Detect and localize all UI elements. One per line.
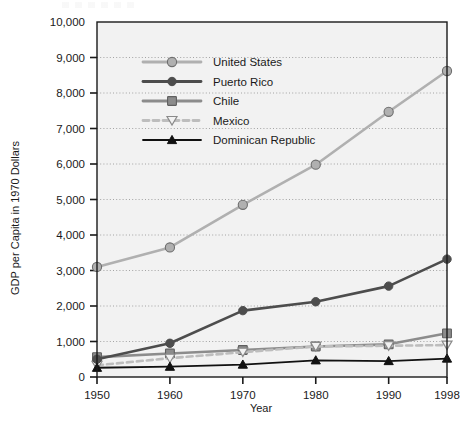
y-tick-label: 6,000 [56, 158, 85, 170]
x-tick-label: 1990 [376, 389, 402, 401]
gdp-per-capita-line-chart: 01,0002,0003,0004,0005,0006,0007,0008,00… [0, 0, 464, 426]
x-tick-label: 1980 [303, 389, 329, 401]
data-point-circle [384, 107, 393, 116]
data-point-circle-filled [168, 77, 176, 85]
y-tick-label: 4,000 [56, 229, 85, 241]
legend-label: Dominican Republic [213, 134, 316, 146]
y-axis-title: GDP per Capita in 1970 Dollars [9, 141, 21, 295]
data-point-circle [167, 57, 176, 66]
legend-label: United States [213, 56, 282, 68]
data-point-circle-filled [166, 339, 174, 347]
data-point-circle [165, 243, 174, 252]
y-tick-label: 9,000 [56, 52, 85, 64]
y-tick-label: 3,000 [56, 265, 85, 277]
data-point-circle-filled [312, 298, 320, 306]
x-tick-label: 1998 [434, 389, 460, 401]
legend-label: Puerto Rico [213, 76, 273, 88]
chart-figure: 01,0002,0003,0004,0005,0006,0007,0008,00… [0, 0, 464, 426]
y-tick-label: 1,000 [56, 336, 85, 348]
x-axis-title: Year [250, 402, 273, 414]
x-tick-label: 1960 [157, 389, 183, 401]
data-point-circle-filled [239, 306, 247, 314]
data-point-circle-filled [384, 282, 392, 290]
y-tick-label: 0 [79, 371, 85, 383]
x-tick-label: 1950 [84, 389, 110, 401]
y-tick-label: 2,000 [56, 300, 85, 312]
legend-label: Mexico [213, 115, 249, 127]
data-point-circle [311, 160, 320, 169]
y-tick-label: 10,000 [50, 16, 85, 28]
y-tick-label: 7,000 [56, 123, 85, 135]
legend-label: Chile [213, 95, 239, 107]
y-tick-label: 5,000 [56, 194, 85, 206]
data-point-circle [238, 200, 247, 209]
y-tick-label: 8,000 [56, 87, 85, 99]
x-tick-label: 1970 [230, 389, 256, 401]
data-point-square [168, 97, 177, 106]
